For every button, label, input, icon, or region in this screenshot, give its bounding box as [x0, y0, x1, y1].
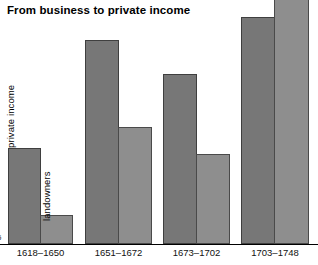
x-tick-label-1651-1672: 1651–1672 — [85, 247, 152, 258]
bar-landowners-1651-1672[interactable] — [118, 127, 152, 244]
bar-private-income-1673-1702[interactable] — [163, 74, 197, 244]
plot-area: private income landowners — [0, 0, 318, 245]
series-caption-landowners: landowners — [41, 171, 52, 221]
bar-landowners-1703-1748[interactable] — [274, 0, 309, 244]
x-tick-label-1618-1650: 1618–1650 — [8, 247, 73, 258]
x-tick-label-1673-1702: 1673–1702 — [163, 247, 230, 258]
bar-group-1703-1748 — [241, 0, 309, 245]
bar-private-income-1651-1672[interactable] — [85, 40, 119, 244]
chart-title: From business to private income — [7, 4, 190, 16]
x-axis-baseline — [0, 244, 318, 245]
bar-group-1673-1702 — [163, 0, 230, 245]
bar-group-1651-1672 — [85, 0, 152, 245]
bar-private-income-1703-1748[interactable] — [241, 17, 275, 244]
y-axis-tick-label: 5 — [0, 233, 1, 242]
series-caption-private-income: private income — [5, 85, 16, 148]
bar-private-income-1618-1650[interactable] — [8, 148, 41, 244]
bar-chart-figure: From business to private income private … — [0, 0, 318, 265]
x-tick-label-1703-1748: 1703–1748 — [241, 247, 309, 258]
bar-landowners-1673-1702[interactable] — [196, 154, 230, 244]
x-axis-tick-labels: 1618–1650 1651–1672 1673–1702 1703–1748 — [0, 247, 318, 263]
